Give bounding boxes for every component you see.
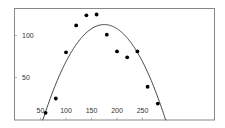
data-point [156,102,160,106]
x-tick-label: 200 [111,107,123,114]
data-point [125,55,129,59]
data-point [136,50,140,54]
x-tick-label: 250 [137,107,149,114]
data-point [95,13,99,17]
x-tick-label: 150 [86,107,98,114]
x-tick-label: 50 [37,107,45,114]
data-point [115,50,119,54]
data-point [105,33,109,37]
data-point [54,97,58,101]
data-point [85,13,89,17]
y-tick-label: 100 [22,32,34,39]
data-point [74,24,78,28]
x-tick-label: 100 [60,107,72,114]
y-tick-label: 50 [22,74,30,81]
data-point [44,111,48,115]
plot-frame [15,9,215,121]
data-point [146,85,150,89]
scatter-chart: 50100 50100150200250 [0,0,225,128]
data-point [64,50,68,54]
